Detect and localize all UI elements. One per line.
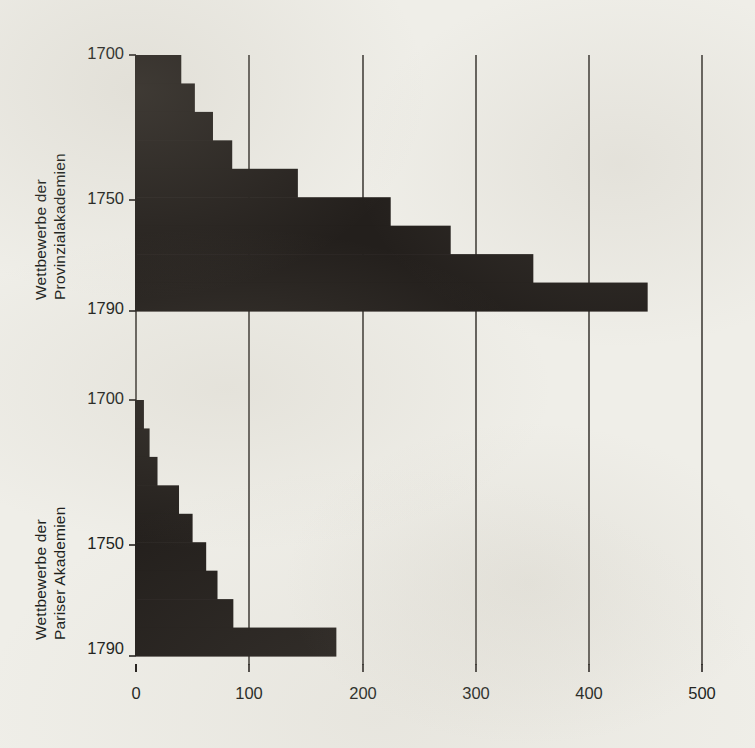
bottom-panel-bar — [136, 400, 144, 429]
bottom-panel-bar — [136, 571, 218, 600]
top-panel-bar — [136, 112, 213, 141]
top-panel-bar — [136, 83, 195, 112]
top-panel-bar — [136, 55, 181, 84]
plot-surface — [0, 0, 755, 748]
bottom-panel-bar — [136, 599, 233, 628]
gridlines-group — [249, 55, 702, 665]
bottom-panel-bar — [136, 514, 193, 543]
top-panel-bar — [136, 197, 391, 226]
figure-two-panel-histogram: Wettbewerbe der Provinzialakademien Wett… — [0, 0, 755, 748]
bottom-panel-bar — [136, 457, 158, 486]
top-panel-bar — [136, 283, 648, 312]
bottom-panel-bar — [136, 428, 150, 457]
top-panel-bar — [136, 169, 298, 198]
top-panel-bar — [136, 140, 232, 169]
top-panel-bars — [136, 55, 648, 312]
bottom-panel-bars — [136, 400, 336, 657]
top-panel-bar — [136, 226, 451, 255]
bottom-panel-bar — [136, 485, 179, 514]
bottom-panel-bar — [136, 628, 336, 657]
bottom-panel-bar — [136, 542, 206, 571]
top-panel-bar — [136, 254, 533, 283]
